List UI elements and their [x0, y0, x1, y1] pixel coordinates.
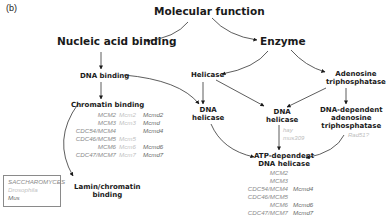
gene-row: CDC47/MCM7Mcmd7: [236, 209, 313, 217]
species-legend: SACCHAROMYCES Drosophila Mus: [3, 175, 61, 207]
node-nucleic-acid-binding: Nucleic acid binding: [57, 35, 176, 47]
node-dna-binding: DNA binding: [80, 72, 129, 80]
gene-list-dna-helicase-mid: hay mus309: [283, 126, 304, 142]
node-atp-dependent-dna-helicase: ATP-dependent DNA helicase: [254, 152, 314, 168]
gene-row: MCM3Mcm3Mcmd: [64, 119, 163, 127]
gene-row: MCM6Mcmd6: [236, 201, 313, 209]
gene-row: CDC46/MCM5: [236, 193, 313, 201]
edge-dnahelleft-atpdep: [211, 124, 254, 157]
node-enzyme: Enzyme: [260, 35, 306, 47]
gene-row: CDC54/MCM4Mcmd4: [64, 127, 163, 135]
gene-row: CDC47/MCM7Mcm7Mcmd7: [64, 151, 163, 159]
gene-row: MCM3: [236, 177, 313, 185]
node-helicase: Helicase: [191, 71, 224, 79]
edge-atpase-dnahel-mid: [287, 88, 326, 107]
edge-mf-enzyme: [212, 18, 257, 40]
node-molecular-function: Molecular function: [154, 5, 265, 17]
node-dna-dependent-atpase: DNA-dependent adenosine triphosphatase: [320, 106, 383, 130]
gene-list-dna-dependent-atpase: Rad51?: [348, 131, 369, 139]
legend-item-mus: Mus: [8, 194, 56, 202]
legend-item-saccharomyces: SACCHAROMYCES: [8, 178, 56, 186]
edge-dnab-dnahel: [124, 75, 199, 104]
edge-enzyme-atpase: [291, 50, 325, 72]
gene-row: MCM6Mcm6Mcmd6: [64, 143, 163, 151]
gene-list-atp-dependent-dna-helicase: MCM2 MCM3 CDC54/MCM4Mcmd4 CDC46/MCM5 MCM…: [236, 169, 313, 217]
node-dna-helicase-left: DNA helicase: [192, 106, 224, 122]
node-chromatin-binding: Chromatin binding: [71, 101, 144, 109]
node-adenosine-triphosphatase: Adenosine triphosphatase: [326, 70, 386, 86]
gene-list-chromatin-binding: MCM2Mcm2Mcmd2 MCM3Mcm3Mcmd CDC54/MCM4Mcm…: [64, 111, 163, 159]
edge-enzyme-helicase: [222, 51, 268, 74]
panel-label: (b): [6, 3, 17, 13]
gene-row: MCM2: [236, 169, 313, 177]
edge-hel-dnahel-mid: [216, 80, 264, 106]
legend-item-drosophila: Drosophila: [8, 186, 56, 194]
gene-row: MCM2Mcm2Mcmd2: [64, 111, 163, 119]
gene-row: CDC54/MCM4Mcmd4: [236, 185, 313, 193]
node-lamin-chromatin-binding: Lamin/chromatin binding: [74, 183, 141, 199]
node-dna-helicase-mid: DNA helicase: [266, 108, 298, 124]
gene-row: CDC46/MCM5Mcm5: [64, 135, 163, 143]
